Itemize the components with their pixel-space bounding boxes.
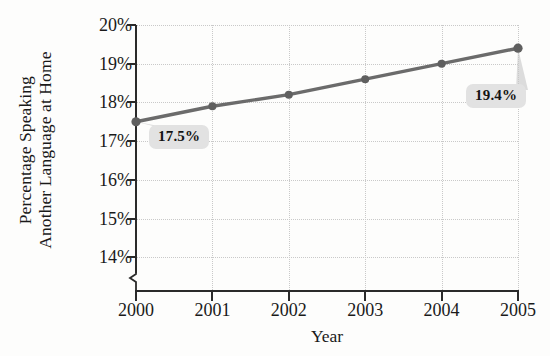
data-label-callout: 19.4% <box>466 84 526 108</box>
y-axis-tick <box>127 179 136 181</box>
data-point-marker <box>285 91 293 99</box>
y-axis-tick-label: 20% <box>70 15 132 36</box>
plot-area <box>136 25 518 292</box>
y-axis-tick-label: 16% <box>70 169 132 190</box>
y-axis-tick-label: 15% <box>70 208 132 229</box>
gridline-horizontal <box>136 257 518 258</box>
chart-figure: Percentage Speaking Another Language at … <box>0 0 550 356</box>
y-axis-title-line-2: Another Language at Home <box>35 51 55 248</box>
y-axis-tick-label: 19% <box>70 53 132 74</box>
x-axis-tick-label: 2002 <box>271 300 307 321</box>
data-series-line <box>136 25 436 175</box>
x-axis-tick-label: 2001 <box>194 300 230 321</box>
data-label-callout: 17.5% <box>149 125 209 149</box>
x-axis-tick-label: 2004 <box>424 300 460 321</box>
y-axis-tick-label: 14% <box>70 247 132 268</box>
y-axis-tick-label: 18% <box>70 92 132 113</box>
x-axis-tick-label: 2005 <box>500 300 536 321</box>
y-axis-tick <box>127 140 136 142</box>
x-axis-tick-label: 2000 <box>118 300 154 321</box>
axis-break-icon <box>127 266 145 292</box>
y-axis-tick <box>127 63 136 65</box>
data-point-marker <box>361 75 369 83</box>
y-axis-tick <box>127 218 136 220</box>
x-axis-tick-label: 2003 <box>347 300 383 321</box>
y-axis-tick <box>127 24 136 26</box>
data-point-marker <box>513 44 522 53</box>
y-axis-tick <box>127 101 136 103</box>
data-point-marker <box>131 117 140 126</box>
y-axis-title: Percentage Speaking Another Language at … <box>0 0 70 300</box>
y-axis-title-line-1: Percentage Speaking <box>15 51 35 248</box>
y-axis-tick <box>127 256 136 258</box>
x-axis-title: Year <box>136 326 518 347</box>
gridline-vertical <box>518 25 519 292</box>
x-axis-line <box>135 290 519 292</box>
data-point-marker <box>438 60 446 68</box>
gridline-horizontal <box>136 219 518 220</box>
data-point-marker <box>208 102 216 110</box>
gridline-horizontal <box>136 180 518 181</box>
y-axis-tick-label: 17% <box>70 131 132 152</box>
